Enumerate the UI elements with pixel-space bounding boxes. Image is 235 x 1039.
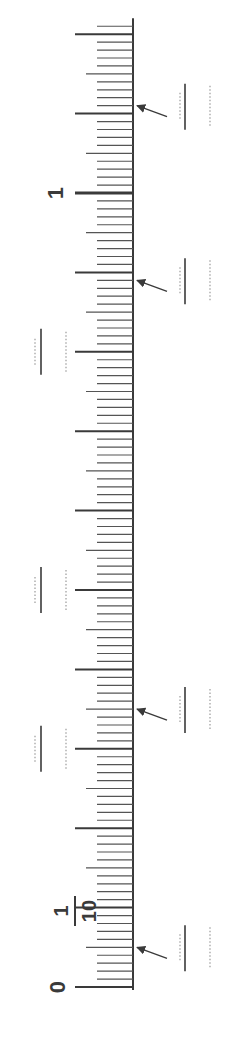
label-one-tenth: 1 10 [51,896,99,926]
number-line [0,0,235,1039]
label-one: 1 [45,181,67,205]
pointer-arrow-icon [137,709,167,720]
number-line-worksheet: 0 1 10 1 [0,0,235,1039]
label-zero: 0 [47,975,69,999]
fraction-numerator: 1 [51,896,71,926]
pointer-arrow-icon [137,106,167,117]
pointer-arrow-icon [137,947,167,958]
fraction-denominator: 10 [79,896,99,926]
fraction-bar [74,896,76,926]
pointer-arrow-icon [137,280,167,291]
